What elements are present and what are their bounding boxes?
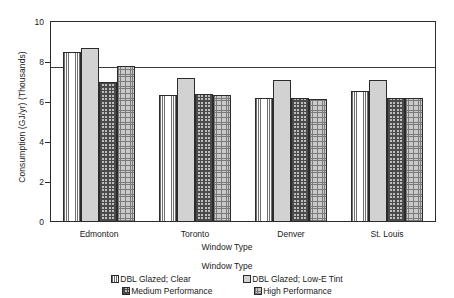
legend-label: DBL Glazed; Clear <box>120 274 191 284</box>
bar <box>405 98 423 222</box>
legend-item[interactable]: DBL Glazed; Low-E Tint <box>243 274 342 284</box>
bar <box>255 98 273 222</box>
y-tick-mark <box>45 102 50 103</box>
bar <box>177 78 195 222</box>
bar <box>159 95 177 222</box>
x-tick-label: Denver <box>277 229 304 239</box>
y-tick-label: 6 <box>14 97 44 107</box>
bar <box>291 98 309 222</box>
y-tick-mark <box>45 62 50 63</box>
bar-group <box>255 22 327 222</box>
y-tick-mark <box>45 182 50 183</box>
x-tick-label: Edmonton <box>80 229 119 239</box>
y-tick-label: 2 <box>14 177 44 187</box>
y-tick-label: 4 <box>14 137 44 147</box>
x-axis-title: Window Type <box>0 242 454 252</box>
bar <box>369 80 387 222</box>
bar <box>81 48 99 222</box>
legend-label: Medium Performance <box>131 286 212 296</box>
y-tick-label: 10 <box>14 17 44 27</box>
bar <box>213 95 231 222</box>
legend-row: Medium PerformanceHigh Performance <box>122 286 332 296</box>
bar <box>387 98 405 222</box>
bars-layer <box>51 22 435 222</box>
bar <box>117 66 135 222</box>
x-tick-label: St. Louis <box>370 229 403 239</box>
bar <box>63 52 81 222</box>
y-tick-mark <box>45 142 50 143</box>
bar-group <box>63 22 135 222</box>
x-tick-label: Toronto <box>181 229 209 239</box>
legend-swatch-icon <box>254 287 262 295</box>
legend-row: DBL Glazed; ClearDBL Glazed; Low-E Tint <box>111 274 342 284</box>
legend-item[interactable]: High Performance <box>254 286 332 296</box>
bar <box>195 94 213 222</box>
bar <box>99 82 117 222</box>
legend-item[interactable]: Medium Performance <box>122 286 254 296</box>
legend-label: DBL Glazed; Low-E Tint <box>252 274 342 284</box>
bar-group <box>159 22 231 222</box>
legend-title: Window Type <box>202 261 253 271</box>
y-tick-label: 0 <box>14 217 44 227</box>
legend-item[interactable]: DBL Glazed; Clear <box>111 274 243 284</box>
legend-label: High Performance <box>263 286 332 296</box>
bar-chart: Consumption (GJ/yr) (Thousands) 0246810 … <box>0 0 454 298</box>
legend-swatch-icon <box>243 275 251 283</box>
legend-swatch-icon <box>122 287 130 295</box>
legend: Window TypeDBL Glazed; ClearDBL Glazed; … <box>0 261 454 296</box>
legend-swatch-icon <box>111 275 119 283</box>
y-tick-label: 8 <box>14 57 44 67</box>
bar <box>351 91 369 222</box>
bar <box>273 80 291 222</box>
bar-group <box>351 22 423 222</box>
bar <box>309 99 327 222</box>
